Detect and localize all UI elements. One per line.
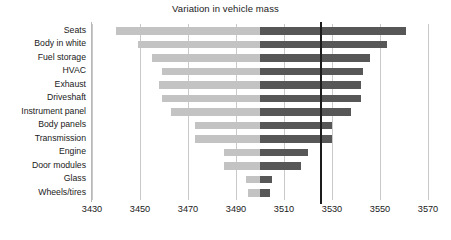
table-row	[92, 173, 428, 187]
bar-segment-high	[260, 68, 363, 76]
category-label: Driveshaft	[0, 91, 86, 105]
table-row	[92, 159, 428, 173]
table-row	[92, 78, 428, 92]
category-axis-labels: SeatsBody in whiteFuel storageHVACExhaus…	[0, 24, 86, 200]
table-row	[92, 65, 428, 79]
bar-segment-low	[248, 189, 260, 197]
bar-segment-low	[162, 95, 260, 103]
bar-segment-high	[260, 162, 301, 170]
category-label: Glass	[0, 172, 86, 186]
chart-container: Variation in vehicle mass SeatsBody in w…	[0, 0, 451, 240]
bar-segment-high	[260, 149, 308, 157]
bar-segment-high	[260, 108, 351, 116]
bar-segment-low	[195, 122, 260, 130]
table-row	[92, 119, 428, 133]
bar-segment-low	[162, 68, 260, 76]
category-label: Fuel storage	[0, 51, 86, 65]
bar-segment-high	[260, 81, 361, 89]
plot-area	[92, 24, 428, 200]
category-label: Instrument panel	[0, 105, 86, 119]
table-row	[92, 51, 428, 65]
chart-title: Variation in vehicle mass	[0, 3, 451, 14]
category-label: Wheels/tires	[0, 186, 86, 200]
x-tick-label: 3490	[226, 204, 246, 214]
category-label: Seats	[0, 24, 86, 38]
x-tick-label: 3430	[82, 204, 102, 214]
table-row	[92, 146, 428, 160]
x-axis-tick-labels: 34303450347034903510353035503570	[0, 204, 451, 224]
category-label: Door modules	[0, 159, 86, 173]
bar-segment-low	[171, 108, 260, 116]
x-tick-label: 3550	[370, 204, 390, 214]
table-row	[92, 186, 428, 200]
bar-segment-low	[116, 27, 260, 35]
table-row	[92, 92, 428, 106]
category-label: Exhaust	[0, 78, 86, 92]
table-row	[92, 105, 428, 119]
x-tick-label: 3450	[130, 204, 150, 214]
bar-segment-low	[224, 149, 260, 157]
category-label: Body in white	[0, 37, 86, 51]
bar-segment-high	[260, 41, 387, 49]
table-row	[92, 132, 428, 146]
bar-segment-low	[195, 135, 260, 143]
table-row	[92, 24, 428, 38]
bar-segment-low	[152, 54, 260, 62]
bar-segment-low	[159, 81, 260, 89]
bar-segment-high	[260, 95, 361, 103]
category-label: Body panels	[0, 118, 86, 132]
x-tick-label: 3470	[178, 204, 198, 214]
category-label: Engine	[0, 145, 86, 159]
bar-segment-high	[260, 27, 406, 35]
x-tick-label: 3530	[322, 204, 342, 214]
bar-segment-high	[260, 189, 270, 197]
bar-segment-low	[138, 41, 260, 49]
x-tick-label: 3510	[274, 204, 294, 214]
gridline-3570	[428, 24, 429, 200]
table-row	[92, 38, 428, 52]
category-label: HVAC	[0, 64, 86, 78]
x-tick-label: 3570	[418, 204, 438, 214]
category-label: Transmission	[0, 132, 86, 146]
bar-segment-high	[260, 176, 272, 184]
bar-segment-high	[260, 54, 370, 62]
bar-segment-low	[224, 162, 260, 170]
reference-line	[320, 22, 322, 204]
bar-segment-low	[246, 176, 260, 184]
